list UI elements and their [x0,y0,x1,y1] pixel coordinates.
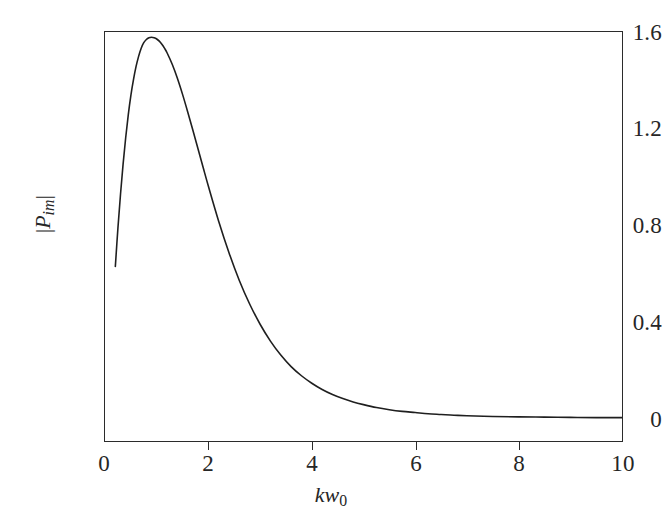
x-tick-label-6: 6 [381,452,451,475]
y-title-right-bar: | [30,195,55,199]
y-axis-title: |Pim| [32,154,60,274]
x-tick-label-4: 4 [277,452,347,475]
x-title-symbol-k: k [315,482,325,507]
plot-area [104,31,623,442]
x-tick-mark-6 [416,442,417,450]
data-curve-svg [105,32,622,441]
y-title-subscript: im [40,200,57,216]
figure-container: 0 0.4 0.8 1.2 1.6 0 2 4 6 8 10 |Pim| kw0 [0,0,662,518]
x-tick-label-8: 8 [484,452,554,475]
x-tick-label-0: 0 [69,452,139,475]
x-tick-mark-2 [208,442,209,450]
x-title-subscript: 0 [339,492,347,509]
data-series-line [115,37,622,417]
y-title-symbol: P [30,215,55,228]
y-title-left-bar: | [30,229,55,233]
x-tick-mark-8 [519,442,520,450]
x-axis-title: kw0 [0,484,662,512]
x-tick-mark-4 [312,442,313,450]
x-tick-label-10: 10 [588,452,658,475]
x-title-symbol-w: w [325,482,340,507]
x-tick-label-2: 2 [173,452,243,475]
